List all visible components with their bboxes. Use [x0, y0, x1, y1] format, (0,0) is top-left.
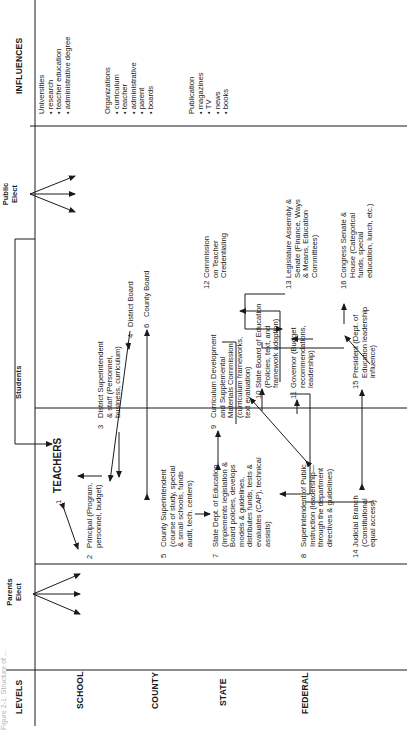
- students-header: Students: [14, 365, 23, 399]
- influences-header: INFLUENCES: [14, 38, 24, 94]
- elect-label: Elect: [15, 572, 24, 612]
- node-state-dept-education: 7 State Dept. of Education (Implements l…: [212, 457, 272, 558]
- node-number: 8: [300, 549, 309, 558]
- node-number: 4: [127, 329, 136, 338]
- node-number: 1: [55, 495, 64, 504]
- figure-caption: Figure 2-1: Structure of ...: [0, 650, 7, 730]
- influence-organizations: Organizations curriculum teacher adminis…: [104, 62, 156, 114]
- governance-diagram: Figure 2-1: Structure of ... LEVELS Pare…: [0, 0, 407, 734]
- parents-elect-label: Parents Elect: [6, 572, 23, 612]
- node-number: 11: [290, 390, 299, 399]
- levels-header: LEVELS: [14, 680, 24, 714]
- node-number: 7: [212, 549, 221, 558]
- node-superintendent-public-instruction: 8 Superintendent of Public Instruction (…: [300, 464, 334, 558]
- node-line: County Board: [142, 270, 151, 316]
- influence-item: books: [222, 72, 231, 114]
- node-congress: 16 Congress Senate & House (Categorical …: [340, 204, 374, 289]
- node-line: personnel, budget): [95, 483, 104, 548]
- node-number: 2: [86, 550, 95, 559]
- node-district-board: 4 District Board: [127, 281, 136, 338]
- node-number: 15: [352, 380, 361, 389]
- node-line: influence): [369, 307, 378, 378]
- node-county-superintendent: 5 County Superintendent (course of study…: [160, 466, 194, 558]
- node-line: text evaluation): [244, 334, 253, 418]
- node-number: 5: [160, 549, 169, 558]
- node-line: framework adoption): [272, 303, 281, 387]
- node-legislature: 13 Legislature Assembly & Senate (Financ…: [285, 199, 319, 289]
- node-line: Credentialing: [220, 233, 229, 278]
- level-school: SCHOOL: [75, 671, 85, 709]
- node-line: assists): [264, 457, 273, 546]
- influence-universities: Universities research teacher education …: [38, 37, 72, 114]
- node-judicial-branch: 14 Judicial Branch (Constitutional equal…: [352, 495, 378, 558]
- node-line: leadership): [307, 325, 316, 387]
- node-number: 13: [285, 280, 294, 289]
- node-line: District Board: [126, 281, 135, 327]
- node-number: 14: [352, 549, 361, 558]
- elect-label: Elect: [11, 174, 20, 214]
- public-elect-label: Public Elect: [2, 174, 19, 214]
- node-district-superintendent: 3 District Superintendent & staff (Perso…: [97, 341, 123, 429]
- node-teachers: 1 TEACHERS: [54, 438, 64, 504]
- node-line: equal access): [369, 495, 378, 547]
- node-line: audit, tech. centers): [186, 466, 195, 547]
- node-line: education, lunch, etc.): [366, 204, 375, 278]
- node-line: directives & guidelines): [326, 464, 335, 547]
- node-governor: 11 Governor (Budget recommendations, lea…: [290, 325, 316, 399]
- node-county-board: 6 County Board: [143, 270, 152, 328]
- node-number: 12: [203, 280, 212, 289]
- node-state-board-education: 10 State Board of Education (Policies, t…: [255, 303, 281, 399]
- level-state: STATE: [218, 678, 228, 706]
- node-label: TEACHERS: [52, 438, 63, 493]
- node-number: 6: [143, 319, 152, 328]
- node-line: business, curriculum): [114, 341, 123, 418]
- node-principal: 2 Principal (Program, personnel, budget): [86, 483, 103, 559]
- node-number: 3: [97, 420, 106, 429]
- node-number: 16: [340, 280, 349, 289]
- level-federal: FEDERAL: [300, 672, 310, 714]
- node-curriculum-commission: 9 Curriculum Development and Supplementa…: [210, 334, 253, 429]
- node-teacher-credentialing-commission: 12 Commission on Teacher Credentialing: [203, 233, 229, 289]
- node-president: 15 President (Dept. of Education leaders…: [352, 307, 378, 389]
- level-county: COUNTY: [150, 672, 160, 709]
- influence-item: boards: [147, 62, 156, 114]
- influence-publication: Publication magazines TV news books: [188, 72, 231, 114]
- node-line: Committees): [311, 199, 320, 278]
- influence-item: administrative degree: [64, 37, 73, 114]
- node-number: 10: [255, 390, 264, 399]
- node-number: 9: [210, 420, 219, 429]
